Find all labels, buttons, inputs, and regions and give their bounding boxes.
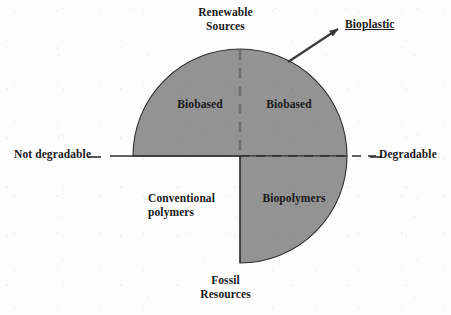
axis-label-degradable: Degradable bbox=[379, 148, 437, 162]
bottom-right-quadrant bbox=[240, 156, 347, 263]
conventional-polymers-line2: polymers bbox=[148, 206, 215, 220]
quadrant-label-biobased-top-left: Biobased bbox=[165, 98, 235, 112]
quadrant-label-biobased-top-right: Biobased bbox=[254, 98, 324, 112]
callout-label-bioplastic: Bioplastic bbox=[345, 18, 395, 32]
axis-label-not-degradable: Not degradable bbox=[14, 148, 91, 162]
fossil-resources-line2: Resources bbox=[0, 288, 451, 302]
axis-label-fossil-resources: Fossil Resources bbox=[0, 274, 451, 301]
conventional-polymers-line1: Conventional bbox=[148, 192, 215, 206]
diagram-canvas: Renewable Sources Fossil Resources Not d… bbox=[0, 0, 451, 315]
bioplastic-arrow bbox=[288, 29, 338, 62]
quadrant-label-conventional-polymers: Conventional polymers bbox=[148, 192, 215, 219]
fossil-resources-line1: Fossil bbox=[0, 274, 451, 288]
quadrant-label-biopolymers: Biopolymers bbox=[254, 192, 334, 206]
